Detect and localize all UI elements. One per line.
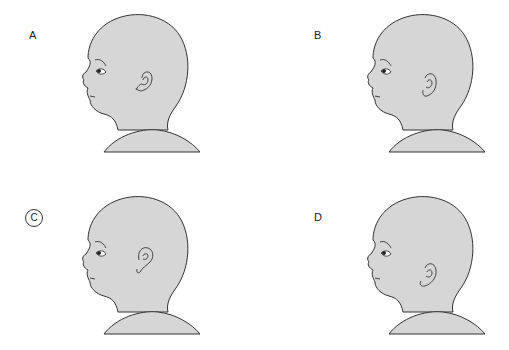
- head-silhouette: [368, 15, 485, 152]
- infant-head-illustration: [0, 0, 254, 175]
- head-silhouette: [83, 197, 200, 334]
- infant-head-illustration: [285, 182, 509, 350]
- panel-d[interactable]: D: [285, 182, 509, 350]
- panel-b[interactable]: B: [285, 0, 509, 175]
- panel-c[interactable]: C: [0, 182, 254, 350]
- infant-head-illustration: [0, 182, 254, 350]
- panel-a[interactable]: A: [0, 0, 254, 175]
- infant-head-illustration: [285, 0, 509, 175]
- head-silhouette: [83, 15, 200, 152]
